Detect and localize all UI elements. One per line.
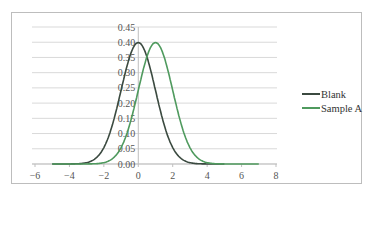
y-tick-label: 0.45 bbox=[118, 22, 136, 33]
legend-label: Sample A bbox=[321, 103, 362, 114]
y-tick-label: 0.35 bbox=[118, 52, 136, 63]
x-tick-label: −6 bbox=[30, 170, 41, 181]
x-tick-label: 4 bbox=[205, 170, 210, 181]
legend-item-blank: Blank bbox=[302, 87, 362, 101]
x-axis-ticks: −6−4−202468 bbox=[30, 170, 279, 181]
x-tick-label: 6 bbox=[239, 170, 244, 181]
legend-swatch-blank bbox=[302, 93, 320, 95]
y-tick-label: 0.40 bbox=[118, 37, 136, 48]
legend-swatch-sample-a bbox=[302, 107, 320, 109]
gridlines bbox=[32, 27, 277, 164]
y-tick-label: 0.20 bbox=[118, 98, 136, 109]
x-tick-label: −4 bbox=[64, 170, 75, 181]
legend-label: Blank bbox=[321, 89, 346, 100]
x-tick-label: 2 bbox=[170, 170, 175, 181]
legend: Blank Sample A bbox=[302, 87, 362, 115]
x-tick-label: 8 bbox=[274, 170, 279, 181]
axes bbox=[32, 27, 277, 167]
cropped-caption-strip bbox=[12, 190, 352, 199]
y-tick-label: 0.00 bbox=[118, 159, 136, 170]
legend-item-sample-a: Sample A bbox=[302, 101, 362, 115]
x-tick-label: −2 bbox=[99, 170, 110, 181]
x-tick-label: 0 bbox=[136, 170, 141, 181]
